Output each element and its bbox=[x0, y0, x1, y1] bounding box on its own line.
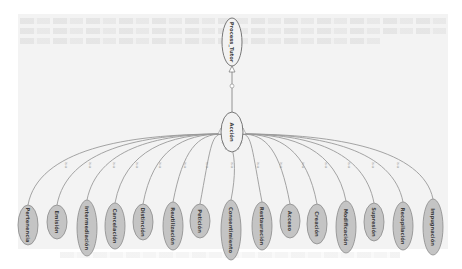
edge-child-to-middle bbox=[143, 134, 222, 204]
edge-label: is-a bbox=[112, 162, 116, 168]
child-label: Creación bbox=[314, 211, 320, 237]
child-label: Cancelación bbox=[112, 209, 118, 244]
child-label: Acceso bbox=[287, 211, 293, 232]
edge-label: is-a bbox=[256, 162, 260, 168]
child-label: Reutilización bbox=[170, 207, 176, 245]
edge-label: is-a bbox=[279, 162, 283, 168]
child-node-restauracion[interactable]: Restauración bbox=[252, 202, 272, 250]
child-label: Consentimiento bbox=[228, 207, 234, 253]
edge-label: is-a bbox=[347, 162, 351, 168]
edge-label: is-a bbox=[64, 162, 68, 168]
child-node-creacion[interactable]: Creación bbox=[307, 204, 327, 244]
child-label: Restauración bbox=[259, 207, 265, 246]
child-label: Petición bbox=[197, 209, 203, 233]
edge-label: is-a bbox=[396, 162, 400, 168]
edge-label: is-a bbox=[183, 162, 187, 168]
child-node-reutilizacion[interactable]: Reutilización bbox=[163, 202, 183, 250]
edge-label: is-a bbox=[371, 162, 375, 168]
child-label: Distinción bbox=[140, 207, 146, 237]
root-label: Process_Tutor bbox=[228, 22, 235, 63]
child-node-distincion[interactable]: Distinción bbox=[133, 204, 153, 240]
child-node-intermediacion[interactable]: Intermediación bbox=[77, 200, 97, 256]
child-node-cancelacion[interactable]: Cancelación bbox=[105, 203, 125, 249]
edge-label: is-a bbox=[158, 162, 162, 168]
child-node-peticion[interactable]: Petición bbox=[190, 204, 210, 238]
edge-child-to-middle bbox=[173, 134, 222, 202]
edge-child-to-middle bbox=[242, 134, 403, 202]
child-node-consentimiento[interactable]: Consentimiento bbox=[221, 200, 241, 260]
child-node-emision[interactable]: Emisión bbox=[47, 205, 67, 239]
edge-child-to-middle bbox=[115, 134, 222, 203]
edge-child-to-middle bbox=[57, 134, 222, 205]
child-label: Supresión bbox=[370, 207, 377, 237]
middle-node[interactable]: Acción bbox=[221, 112, 243, 152]
class-diagram: is-ais-ais-ais-ais-ais-ais-ais-ais-ais-a… bbox=[0, 0, 462, 269]
child-label: Modificación bbox=[343, 209, 349, 246]
child-label: Pertenencia bbox=[25, 207, 31, 243]
middle-label: Acción bbox=[229, 122, 235, 142]
root-node[interactable]: Process_Tutor bbox=[222, 18, 242, 66]
edge-child-to-middle bbox=[242, 134, 433, 199]
edge-marker-icon bbox=[230, 84, 234, 88]
edge-label: is-a bbox=[88, 162, 92, 168]
arrowhead-icon bbox=[229, 66, 235, 72]
child-label: Impugnación bbox=[429, 208, 436, 246]
child-node-acceso[interactable]: Acceso bbox=[280, 204, 300, 238]
edge-child-to-middle bbox=[242, 134, 317, 204]
child-nodes: PertenenciaEmisiónIntermediaciónCancelac… bbox=[18, 199, 443, 260]
child-node-recopilacion[interactable]: Recopilación bbox=[393, 202, 413, 250]
edge-label: is-a bbox=[301, 162, 305, 168]
edge-label: is-a bbox=[205, 162, 209, 168]
edge-label: is-a bbox=[230, 162, 234, 168]
edge-label: is-a bbox=[135, 162, 139, 168]
child-label: Emisión bbox=[54, 211, 60, 234]
child-label: Recopilación bbox=[399, 207, 406, 244]
edge-child-to-middle bbox=[87, 134, 222, 200]
child-node-pertenencia[interactable]: Pertenencia bbox=[18, 205, 38, 245]
child-node-supresion[interactable]: Supresión bbox=[364, 203, 384, 241]
child-label: Intermediación bbox=[84, 206, 90, 251]
edge-label: is-a bbox=[324, 162, 328, 168]
edge-child-to-middle bbox=[242, 134, 290, 204]
child-node-impugnacion[interactable]: Impugnación bbox=[423, 199, 443, 255]
edge-child-to-middle bbox=[200, 134, 222, 204]
child-node-modificacion[interactable]: Modificación bbox=[336, 201, 356, 253]
